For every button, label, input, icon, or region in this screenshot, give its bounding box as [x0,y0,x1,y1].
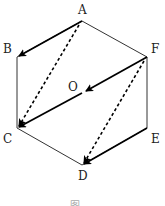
label-F: F [151,43,159,55]
caption: 图 [70,200,80,206]
vector-FO [86,57,147,91]
label-O: O [68,81,78,93]
vector-OC [19,93,82,127]
label-A: A [78,4,87,16]
vector-AB [19,21,82,56]
label-C: C [3,133,12,145]
label-B: B [3,43,12,55]
label-D: D [78,170,88,182]
label-E: E [151,133,160,145]
vector-ED [84,128,147,164]
